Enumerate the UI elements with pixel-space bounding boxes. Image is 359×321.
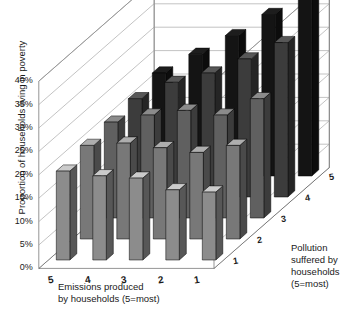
y-axis-tick-label: 0%	[0, 262, 33, 272]
bar-side-face	[106, 170, 113, 260]
z-axis-title-line3: households	[291, 266, 340, 278]
y-axis-tick-label: 40%	[0, 75, 33, 85]
bar-front-face	[202, 192, 216, 260]
y-axis-tick-label: 20%	[0, 169, 33, 179]
bar-side-face	[143, 172, 150, 260]
x-axis-tick-label: 3	[120, 274, 127, 286]
bar	[250, 93, 270, 219]
bar	[166, 184, 187, 260]
z-axis-title-line4: (5=most)	[291, 278, 340, 290]
bar-front-face	[153, 148, 167, 239]
y-axis-tick-label: 30%	[0, 122, 33, 132]
z-axis-title-line1: Pollution	[291, 242, 340, 254]
bar-front-face	[166, 190, 180, 260]
bar	[56, 165, 77, 260]
z-axis-title-line2: suffered by	[291, 254, 340, 266]
y-axis-tick-label: 25%	[0, 145, 33, 155]
bar-front-face	[298, 0, 312, 176]
bar	[226, 139, 247, 239]
bar	[298, 0, 319, 176]
x-axis-title-line1: Emissions produced	[58, 281, 160, 293]
x-axis-tick-label: 2	[157, 274, 164, 286]
y-axis-tick-label: 10%	[0, 216, 33, 226]
bar-side-face	[312, 0, 319, 176]
x-axis-tick-label: 4	[84, 274, 91, 286]
x-axis-tick-label: 5	[47, 274, 54, 286]
y-axis-tick-label: 35%	[0, 99, 33, 109]
bar-side-face	[70, 165, 77, 260]
bar-side-face	[288, 36, 295, 197]
bar-side-face	[216, 186, 223, 260]
chart-container: Proportion of households living in pover…	[0, 0, 359, 321]
bar-front-face	[56, 171, 70, 260]
bar-front-face	[190, 152, 204, 239]
bar	[274, 36, 295, 197]
y-axis-tick-label: 5%	[0, 239, 33, 249]
bar-front-face	[93, 176, 107, 260]
x-axis-title-line2: by households (5=most)	[58, 293, 160, 305]
bar-front-face	[226, 145, 240, 239]
bar	[129, 172, 150, 260]
bar-front-face	[129, 178, 143, 260]
bar-front-face	[80, 145, 94, 239]
bar	[93, 170, 114, 260]
bar-front-face	[274, 43, 288, 197]
bar-front-face	[117, 143, 131, 239]
z-axis-title: Pollution suffered by households (5=most…	[291, 242, 340, 290]
bar-side-face	[240, 139, 247, 239]
bar-front-face	[250, 99, 263, 218]
bar	[202, 186, 223, 260]
x-axis-title: Emissions produced by households (5=most…	[58, 281, 160, 305]
x-axis-tick-label: 1	[193, 274, 200, 286]
bar-side-face	[264, 93, 271, 219]
bar-side-face	[179, 184, 186, 260]
y-axis-tick-label: 15%	[0, 192, 33, 202]
